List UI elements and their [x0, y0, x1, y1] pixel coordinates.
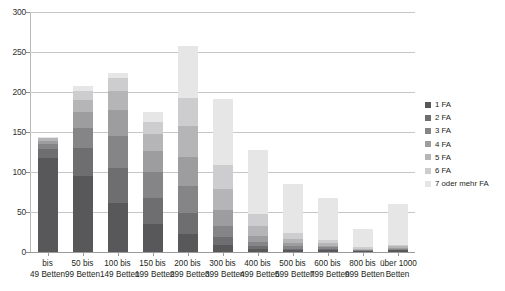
bar-segment[interactable]: [283, 184, 303, 233]
x-axis-tick-mark: [258, 252, 259, 256]
chart-legend: 1 FA2 FA3 FA4 FA5 FA6 FA7 oder mehr FA: [425, 98, 489, 190]
bar-segment[interactable]: [178, 157, 198, 186]
bar-segment[interactable]: [108, 136, 128, 168]
bar-segment[interactable]: [73, 91, 93, 100]
bar-segment[interactable]: [213, 99, 233, 165]
bar-segment[interactable]: [73, 112, 93, 128]
bar-segment[interactable]: [248, 226, 268, 236]
bar-segment[interactable]: [73, 176, 93, 252]
bar-segment[interactable]: [178, 234, 198, 252]
legend-label: 4 FA: [435, 140, 451, 149]
bar-segment[interactable]: [143, 112, 163, 122]
y-axis-tick-label: 250: [0, 47, 26, 57]
x-axis-tick-mark: [398, 252, 399, 256]
x-axis-category-label: über 1000Betten: [380, 259, 415, 280]
x-axis-category-line2: 399 Betten: [205, 270, 240, 281]
bar-segment[interactable]: [143, 198, 163, 224]
x-axis-category-line1: 600 bis: [314, 259, 340, 268]
legend-item[interactable]: 6 FA: [425, 164, 489, 177]
bar-segment[interactable]: [73, 128, 93, 148]
legend-swatch-icon: [425, 181, 431, 187]
x-axis-tick-mark: [188, 252, 189, 256]
bar-segment[interactable]: [73, 100, 93, 112]
x-axis-category-label: 200 bis299 Betten: [170, 259, 205, 280]
bar-segment[interactable]: [213, 226, 233, 237]
legend-item[interactable]: 7 oder mehr FA: [425, 177, 489, 190]
x-axis-category-label: 600 bis799 Betten: [310, 259, 345, 280]
x-axis-category-line2: 999 Betten: [345, 270, 380, 281]
legend-item[interactable]: 1 FA: [425, 98, 489, 111]
legend-swatch-icon: [425, 115, 431, 121]
bar-segment[interactable]: [38, 158, 58, 252]
x-axis-category-line1: über 1000: [380, 259, 417, 268]
x-axis-category-label: 100 bis149 Betten: [100, 259, 135, 280]
legend-item[interactable]: 4 FA: [425, 138, 489, 151]
legend-swatch-icon: [425, 154, 431, 160]
bar-segment[interactable]: [73, 148, 93, 176]
bar-segment[interactable]: [178, 213, 198, 235]
bar-segment[interactable]: [213, 189, 233, 210]
gridline: [30, 52, 415, 53]
bar-stack[interactable]: [108, 73, 128, 252]
x-axis-category-line2: 199 Betten: [135, 270, 170, 281]
x-axis-category-label: bis49 Betten: [30, 259, 65, 280]
bar-segment[interactable]: [178, 98, 198, 127]
bar-segment[interactable]: [213, 165, 233, 189]
bar-stack[interactable]: [143, 112, 163, 252]
bar-segment[interactable]: [108, 78, 128, 91]
bar-segment[interactable]: [108, 110, 128, 136]
bar-stack[interactable]: [73, 86, 93, 252]
bar-segment[interactable]: [178, 46, 198, 97]
bar-segment[interactable]: [248, 214, 268, 227]
bar-segment[interactable]: [213, 245, 233, 252]
stacked-bar-chart: 050100150200250300 bis49 Betten50 bis99 …: [0, 0, 505, 291]
bar-stack[interactable]: [178, 46, 198, 252]
bar-segment[interactable]: [143, 172, 163, 198]
bar-segment[interactable]: [388, 204, 408, 245]
legend-swatch-icon: [425, 168, 431, 174]
bar-segment[interactable]: [178, 186, 198, 213]
bar-segment[interactable]: [143, 151, 163, 172]
bar-stack[interactable]: [318, 198, 338, 252]
bar-segment[interactable]: [108, 203, 128, 252]
bar-segment[interactable]: [143, 224, 163, 252]
bar-stack[interactable]: [388, 204, 408, 252]
y-axis-tick-label: 0: [0, 247, 26, 257]
bar-stack[interactable]: [283, 184, 303, 252]
bar-stack[interactable]: [38, 137, 58, 252]
bar-segment[interactable]: [213, 210, 233, 226]
bar-stack[interactable]: [248, 150, 268, 252]
legend-label: 1 FA: [435, 100, 451, 109]
bar-segment[interactable]: [213, 237, 233, 245]
x-axis-category-line2: 599 Betten: [275, 270, 310, 281]
x-axis-category-line2: 149 Betten: [100, 270, 135, 281]
legend-item[interactable]: 5 FA: [425, 151, 489, 164]
bar-segment[interactable]: [178, 126, 198, 156]
bar-stack[interactable]: [353, 229, 373, 252]
y-axis-tick-label: 150: [0, 127, 26, 137]
bar-segment[interactable]: [143, 122, 163, 135]
x-axis-category-line2: Betten: [380, 270, 415, 281]
bar-stack[interactable]: [213, 99, 233, 252]
legend-item[interactable]: 2 FA: [425, 111, 489, 124]
legend-item[interactable]: 3 FA: [425, 124, 489, 137]
bar-segment[interactable]: [248, 150, 268, 214]
bar-segment[interactable]: [143, 134, 163, 151]
x-axis-category-label: 150 bis199 Betten: [135, 259, 170, 280]
y-axis-tick-mark: [26, 252, 30, 253]
bar-segment[interactable]: [318, 198, 338, 240]
x-axis-tick-mark: [363, 252, 364, 256]
bar-segment[interactable]: [108, 91, 128, 110]
bar-segment[interactable]: [38, 149, 58, 159]
bar-segment[interactable]: [108, 168, 128, 203]
x-axis-tick-mark: [223, 252, 224, 256]
legend-label: 7 oder mehr FA: [435, 179, 489, 188]
y-axis-tick-label: 50: [0, 207, 26, 217]
y-axis-tick-label: 200: [0, 87, 26, 97]
legend-swatch-icon: [425, 102, 431, 108]
plot-area: [30, 12, 415, 252]
x-axis-category-line1: bis: [42, 259, 52, 268]
bar-segment[interactable]: [353, 229, 373, 247]
legend-label: 3 FA: [435, 126, 451, 135]
x-axis-category-line2: 99 Betten: [65, 270, 100, 281]
